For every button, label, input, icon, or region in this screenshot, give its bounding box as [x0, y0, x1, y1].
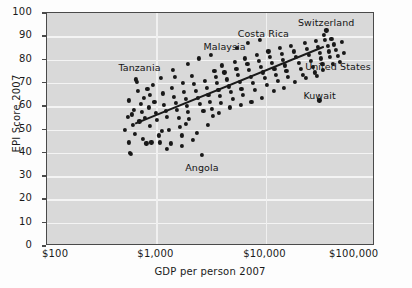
x-axis-label: GDP per person 2007 [46, 266, 374, 277]
scatter-point [142, 96, 146, 100]
scatter-point [239, 87, 243, 91]
y-axis-tick-label: 40 [0, 146, 32, 157]
scatter-point [177, 116, 181, 120]
scatter-point [249, 99, 253, 103]
scatter-point [211, 113, 215, 117]
y-axis-tick-label: 60 [0, 99, 32, 110]
scatter-point [212, 69, 216, 73]
y-axis-tick-label: 70 [0, 76, 32, 87]
scatter-point [184, 122, 188, 126]
scatter-point [222, 70, 226, 74]
scatter-point [305, 47, 309, 51]
scatter-point [257, 59, 261, 63]
scatter-point [125, 115, 129, 119]
annotation-label: Costa Rica [238, 28, 289, 39]
scatter-point [172, 95, 176, 99]
scatter-point [246, 41, 250, 45]
scatter-point [332, 42, 336, 46]
scatter-point [205, 85, 209, 89]
scatter-point [219, 101, 223, 105]
scatter-point [160, 129, 164, 133]
y-axis-tick-label: 0 [0, 239, 32, 250]
scatter-point [304, 76, 308, 80]
y-axis-tick-label: 80 [0, 53, 32, 64]
scatter-point [296, 61, 300, 65]
scatter-point [278, 46, 282, 50]
scatter-point [271, 89, 275, 93]
scatter-point [233, 60, 237, 64]
gridline-horizontal [47, 199, 373, 201]
gridline-horizontal [47, 130, 373, 132]
y-axis-tick-label: 20 [0, 192, 32, 203]
scatter-point [137, 119, 141, 123]
y-axis-tick-label: 90 [0, 29, 32, 40]
scatter-point [165, 115, 169, 119]
scatter-point [272, 67, 276, 71]
scatter-point [340, 40, 344, 44]
y-axis-tick-label: 30 [0, 169, 32, 180]
scatter-point [175, 108, 179, 112]
scatter-point [133, 132, 137, 136]
scatter-point [196, 96, 200, 100]
scatter-point [143, 116, 147, 120]
gridline-horizontal [47, 223, 373, 225]
scatter-point [157, 133, 161, 137]
scatter-point [208, 99, 212, 103]
scatter-point [132, 108, 136, 112]
gridline-vertical [156, 13, 158, 244]
scatter-point [189, 74, 193, 78]
scatter-point [206, 92, 210, 96]
scatter-point [179, 133, 183, 137]
scatter-point [259, 64, 263, 68]
annotation-label: Tanzania [118, 62, 160, 73]
scatter-point [191, 138, 195, 142]
gridline-horizontal [47, 176, 373, 178]
scatter-point [316, 45, 320, 49]
chart-container: EPI Score 2007 0102030405060708090100 Ta… [0, 0, 412, 288]
scatter-point [303, 41, 307, 45]
scatter-point [217, 111, 221, 115]
gridline-horizontal [47, 153, 373, 155]
y-axis-tick-label: 100 [0, 6, 32, 17]
scatter-point [289, 44, 293, 48]
scatter-point [209, 53, 213, 57]
gridline-horizontal [47, 83, 373, 85]
scatter-point [314, 39, 318, 43]
scatter-point [201, 109, 205, 113]
gridline-vertical [266, 13, 268, 244]
scatter-point [280, 52, 284, 56]
scatter-point [283, 63, 287, 67]
scatter-point [151, 83, 155, 87]
scatter-point [282, 85, 286, 89]
scatter-point [171, 68, 175, 72]
scatter-point [229, 90, 233, 94]
scatter-point [149, 140, 153, 144]
x-axis-tick-label: $100 [42, 248, 68, 259]
scatter-point [216, 88, 220, 92]
scatter-point [326, 44, 330, 48]
scatter-point [186, 110, 190, 114]
scatter-point [131, 123, 135, 127]
scatter-point [265, 83, 269, 87]
scatter-point [253, 88, 257, 92]
scatter-point [241, 92, 245, 96]
scatter-point [148, 92, 152, 96]
scatter-point [323, 38, 327, 42]
scatter-point [140, 110, 144, 114]
scatter-point [130, 112, 134, 116]
plot-area: TanzaniaMalaysiaCosta RicaSwitzerlandUni… [46, 12, 374, 245]
scatter-point [318, 51, 322, 55]
scatter-point [270, 61, 274, 65]
scatter-point [307, 53, 311, 57]
x-axis-tick-label: $10,000 [243, 248, 286, 259]
scatter-point [299, 67, 303, 71]
scatter-point [291, 49, 295, 53]
scatter-point [182, 90, 186, 94]
scatter-point [218, 94, 222, 98]
x-axis-tick-label: $1,000 [137, 248, 173, 259]
scatter-point [334, 48, 338, 52]
annotation-label: Switzerland [298, 17, 355, 28]
scatter-point [324, 28, 328, 32]
scatter-point [155, 118, 159, 122]
y-axis-tick-label: 10 [0, 216, 32, 227]
